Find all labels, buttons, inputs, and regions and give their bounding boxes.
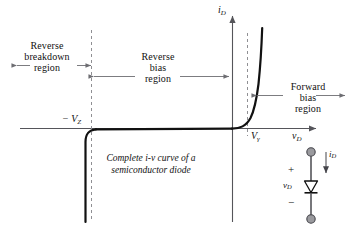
minus-vz-main: − V: [62, 113, 77, 124]
circuit-label-id: iD: [329, 149, 336, 160]
v-gamma-sub: γ: [257, 135, 260, 143]
circuit-plus-sign: +: [288, 163, 294, 175]
axis-tick-label-v-gamma: Vγ: [251, 130, 260, 143]
minus-vz-sub: Z: [77, 118, 81, 126]
caption-post: curve of a: [155, 153, 195, 163]
caption-iv: i-v: [145, 153, 155, 163]
region-label-reverse-breakdown: Reverse breakdown region: [8, 40, 86, 74]
reverse-breakdown-line2: breakdown: [8, 51, 86, 62]
forward-bias-line1: Forward: [284, 81, 332, 92]
caption-line-1: Complete i-v curve of a: [85, 152, 217, 164]
reverse-bias-line2: bias: [136, 62, 180, 73]
circuit-id-sub: D: [332, 152, 337, 159]
figure-caption: Complete i-v curve of a semiconductor di…: [85, 152, 217, 177]
diode-circuit-symbol: [305, 148, 327, 223]
circuit-minus-sign: −: [288, 196, 294, 208]
reverse-bias-line3: region: [136, 73, 180, 84]
forward-bias-line2: bias: [284, 92, 332, 103]
circuit-vd-sub: D: [287, 183, 292, 190]
caption-pre: Complete: [106, 153, 145, 163]
axis-label-vd: vD: [292, 130, 302, 143]
reverse-breakdown-line3: region: [8, 62, 86, 73]
forward-bias-line3: region: [284, 103, 332, 114]
diode-iv-curve-figure: Reverse breakdown region Reverse bias re…: [0, 0, 350, 229]
axis-label-id-sub: D: [221, 9, 226, 17]
reverse-bias-line1: Reverse: [136, 51, 180, 62]
axis-label-id: iD: [218, 4, 226, 17]
axis-label-vd-sub: D: [296, 135, 301, 143]
region-label-reverse-bias: Reverse bias region: [136, 51, 180, 85]
region-label-forward-bias: Forward bias region: [284, 81, 332, 115]
caption-line-2: semiconductor diode: [85, 164, 217, 176]
axis-tick-label-minus-vz: − VZ: [62, 113, 81, 126]
reverse-breakdown-line1: Reverse: [8, 40, 86, 51]
circuit-label-vd: vD: [283, 180, 292, 191]
